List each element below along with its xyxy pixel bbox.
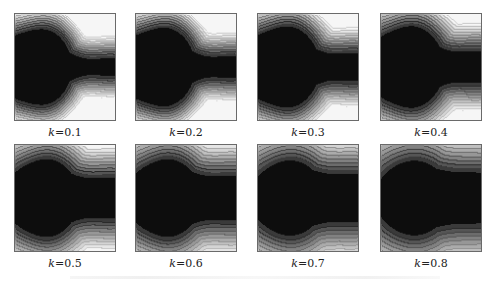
panel-label: k=0.3 (257, 126, 359, 139)
panel-label: k=0.2 (135, 126, 237, 139)
contour-panel-k-0.5 (14, 144, 116, 252)
panel-label: k=0.5 (14, 257, 116, 270)
contour-panel-k-0.2 (135, 13, 237, 121)
panel-label: k=0.4 (380, 126, 482, 139)
contour-panel-k-0.6 (135, 144, 237, 252)
panel-label: k=0.8 (380, 257, 482, 270)
contour-panel-k-0.8 (380, 144, 482, 252)
faded-caption-bleed (70, 276, 440, 279)
contour-panel-k-0.1 (14, 13, 116, 121)
panel-label: k=0.7 (257, 257, 359, 270)
contour-panel-k-0.7 (257, 144, 359, 252)
contour-panel-k-0.4 (380, 13, 482, 121)
panel-label: k=0.6 (135, 257, 237, 270)
panel-label: k=0.1 (14, 126, 116, 139)
contour-panel-k-0.3 (257, 13, 359, 121)
